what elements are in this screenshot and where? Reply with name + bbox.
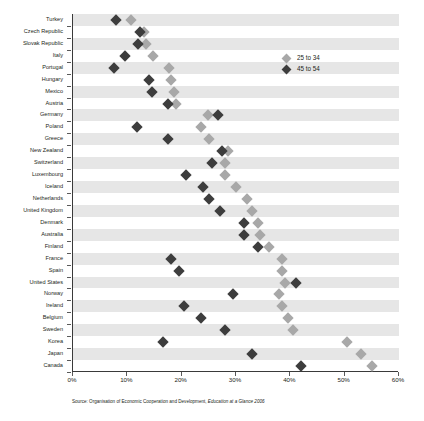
y-axis-label: Mexico bbox=[45, 89, 63, 95]
y-axis-tick bbox=[67, 372, 71, 373]
plot-area bbox=[72, 14, 398, 372]
x-axis-tick-label: 10% bbox=[111, 377, 141, 383]
y-axis-label: Korea bbox=[48, 339, 63, 345]
source-note: Source: Organisation of Economic Coopera… bbox=[72, 399, 265, 404]
y-axis-tick bbox=[67, 145, 71, 146]
row-band bbox=[73, 74, 399, 86]
y-axis-label: United States bbox=[29, 280, 63, 286]
row-band bbox=[73, 324, 399, 336]
x-axis-tick-label: 60% bbox=[383, 377, 413, 383]
y-axis-tick bbox=[67, 193, 71, 194]
row-band bbox=[73, 360, 399, 372]
x-axis-tick-label: 0% bbox=[57, 377, 87, 383]
chart-figure: TurkeyCzech RepublicSlovak RepublicItaly… bbox=[0, 0, 424, 421]
y-axis-tick bbox=[67, 133, 71, 134]
row-band bbox=[73, 253, 399, 265]
y-axis-label: Netherlands bbox=[33, 196, 63, 202]
y-axis-label: United Kingdom bbox=[23, 208, 63, 214]
y-axis-label: Portugal bbox=[42, 65, 63, 71]
y-axis-label: Poland bbox=[46, 124, 63, 130]
row-band bbox=[73, 98, 399, 110]
row-band bbox=[73, 109, 399, 121]
y-axis-label: Hungary bbox=[42, 77, 63, 83]
row-band bbox=[73, 348, 399, 360]
y-axis-label: Japan bbox=[48, 351, 63, 357]
row-band bbox=[73, 157, 399, 169]
legend-label-young: 25 to 34 bbox=[297, 55, 320, 61]
y-axis-tick bbox=[67, 277, 71, 278]
y-axis-label: Norway bbox=[44, 291, 63, 297]
row-band bbox=[73, 121, 399, 133]
y-axis-label: Belgium bbox=[43, 315, 63, 321]
y-axis-tick bbox=[67, 109, 71, 110]
row-band bbox=[73, 265, 399, 277]
y-axis-label: Luxembourg bbox=[32, 172, 63, 178]
x-axis-tick-label: 40% bbox=[274, 377, 304, 383]
row-band bbox=[73, 300, 399, 312]
y-axis-label: Austria bbox=[46, 101, 63, 107]
y-axis-label: Slovak Republic bbox=[23, 41, 63, 47]
y-axis-tick bbox=[67, 312, 71, 313]
y-axis-tick bbox=[67, 300, 71, 301]
y-axis-label: Germany bbox=[40, 112, 63, 118]
row-band bbox=[73, 312, 399, 324]
y-axis-label: Greece bbox=[45, 136, 63, 142]
y-axis-tick bbox=[67, 98, 71, 99]
y-axis-label: Denmark bbox=[40, 220, 63, 226]
row-band bbox=[73, 133, 399, 145]
y-axis-tick bbox=[67, 169, 71, 170]
y-axis-label: Sweden bbox=[43, 327, 63, 333]
y-axis-label: Spain bbox=[49, 268, 63, 274]
row-band bbox=[73, 86, 399, 98]
x-axis-tick-label: 50% bbox=[329, 377, 359, 383]
y-axis-tick bbox=[67, 121, 71, 122]
y-axis-label: Czech Republic bbox=[24, 29, 63, 35]
y-axis-tick bbox=[67, 324, 71, 325]
y-axis-tick bbox=[67, 26, 71, 27]
y-axis-tick bbox=[67, 74, 71, 75]
row-band bbox=[73, 217, 399, 229]
row-band bbox=[73, 241, 399, 253]
y-axis-tick bbox=[67, 288, 71, 289]
y-axis-label: France bbox=[46, 256, 63, 262]
row-band bbox=[73, 193, 399, 205]
x-axis-tick-label: 20% bbox=[166, 377, 196, 383]
y-axis-label: Italy bbox=[53, 53, 63, 59]
row-band bbox=[73, 38, 399, 50]
chart-legend: 25 to 34 45 to 54 bbox=[283, 53, 320, 75]
y-axis-tick bbox=[67, 38, 71, 39]
row-band bbox=[73, 229, 399, 241]
diamond-icon-young bbox=[282, 54, 292, 64]
row-band bbox=[73, 62, 399, 74]
y-axis-category-labels: TurkeyCzech RepublicSlovak RepublicItaly… bbox=[0, 14, 68, 372]
row-band bbox=[73, 14, 399, 26]
row-band bbox=[73, 205, 399, 217]
y-axis-label: Canada bbox=[43, 363, 63, 369]
y-axis-tick bbox=[67, 86, 71, 87]
source-prefix: Source: Organisation of Economic Coopera… bbox=[72, 399, 208, 404]
y-axis-tick bbox=[67, 50, 71, 51]
y-axis-label: New Zealand bbox=[30, 148, 63, 154]
row-band bbox=[73, 277, 399, 289]
y-axis-tick bbox=[67, 229, 71, 230]
row-band bbox=[73, 145, 399, 157]
legend-item-young: 25 to 34 bbox=[283, 53, 320, 64]
y-axis-tick bbox=[67, 265, 71, 266]
row-band bbox=[73, 26, 399, 38]
y-axis-tick bbox=[67, 336, 71, 337]
y-axis-tick bbox=[67, 348, 71, 349]
y-axis-label: Australia bbox=[41, 232, 63, 238]
y-axis-label: Switzerland bbox=[34, 160, 63, 166]
y-axis-label: Finland bbox=[45, 244, 63, 250]
y-axis-tick bbox=[67, 241, 71, 242]
y-axis-tick bbox=[67, 253, 71, 254]
y-axis-tick bbox=[67, 62, 71, 63]
y-axis-tick bbox=[67, 217, 71, 218]
diamond-icon-older bbox=[282, 65, 292, 75]
y-axis-label: Turkey bbox=[46, 17, 63, 23]
x-axis-tick-label: 30% bbox=[220, 377, 250, 383]
y-axis-label: Iceland bbox=[45, 184, 63, 190]
legend-item-older: 45 to 54 bbox=[283, 64, 320, 75]
row-band bbox=[73, 169, 399, 181]
source-publication: Education at a Glance 2006 bbox=[208, 399, 265, 404]
